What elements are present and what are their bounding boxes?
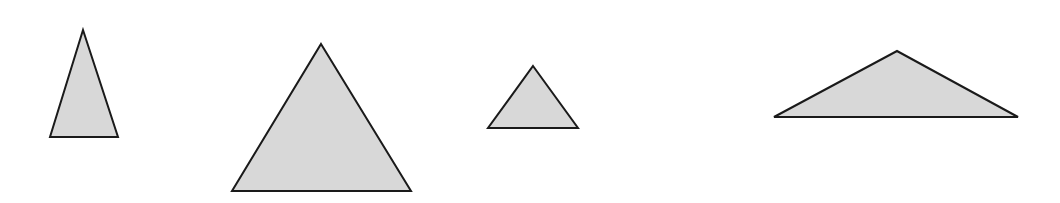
- triangles-diagram: [0, 0, 1060, 203]
- triangle-1: [50, 30, 118, 137]
- triangle-3: [488, 66, 578, 128]
- triangle-2: [232, 44, 411, 191]
- triangle-4: [774, 51, 1018, 117]
